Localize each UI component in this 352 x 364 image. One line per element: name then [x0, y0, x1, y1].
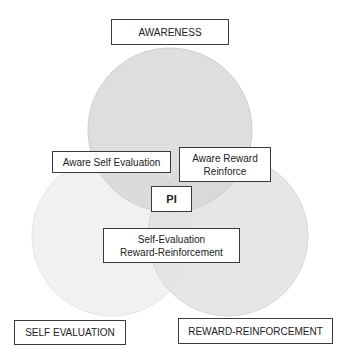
awareness-label: AWARENESS: [111, 19, 229, 45]
self-evaluation-label: SELF EVALUATION: [14, 320, 126, 345]
pi-center-label: PI: [151, 186, 192, 212]
reward-reinforcement-text: REWARD-REINFORCEMENT: [188, 325, 323, 338]
self-evaluation-text: SELF EVALUATION: [25, 326, 115, 339]
aware-self-evaluation-text: Aware Self Evaluation: [63, 156, 161, 169]
self-reward-line2: Reward-Reinforcement: [120, 246, 223, 259]
aware-self-evaluation-label: Aware Self Evaluation: [52, 151, 171, 173]
aware-reward-line1: Aware Reward: [192, 152, 257, 165]
awareness-label-text: AWARENESS: [138, 26, 201, 39]
aware-reward-line2: Reinforce: [204, 165, 247, 178]
self-evaluation-reward-reinforcement-label: Self-Evaluation Reward-Reinforcement: [103, 228, 240, 263]
pi-text: PI: [166, 193, 176, 206]
self-reward-line1: Self-Evaluation: [138, 233, 205, 246]
venn-circles: [0, 0, 352, 364]
reward-reinforcement-label: REWARD-REINFORCEMENT: [178, 318, 333, 344]
aware-reward-reinforce-label: Aware Reward Reinforce: [179, 147, 271, 182]
